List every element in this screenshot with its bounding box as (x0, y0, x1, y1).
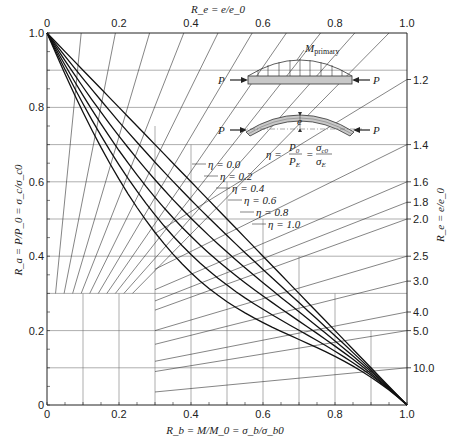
svg-text:0: 0 (38, 399, 44, 411)
svg-text:PE: PE (288, 155, 301, 169)
svg-text:P0: P0 (288, 141, 300, 155)
grid (47, 70, 407, 405)
svg-text:0.6: 0.6 (29, 176, 44, 188)
right-axis-title: R_e = e/e_0 (434, 188, 446, 243)
p-label-left: P (217, 74, 225, 86)
svg-text:2.5: 2.5 (413, 250, 428, 262)
p-label-right: P (372, 74, 380, 86)
top-axis-title: R_e = e/e_0 (190, 3, 245, 15)
svg-text:1.6: 1.6 (413, 176, 428, 188)
e-label: e (297, 115, 302, 127)
svg-text:0.8: 0.8 (327, 408, 342, 420)
svg-text:σE: σE (316, 155, 326, 169)
svg-text:η =: η = (266, 148, 282, 160)
svg-text:0.4: 0.4 (183, 408, 198, 420)
svg-text:0.6: 0.6 (255, 408, 270, 420)
beam-diagram: P P Mprimary (217, 42, 380, 86)
x-axis-title: R_b = M/M_0 = σ_b/σ_b0 (165, 424, 284, 436)
interaction-chart: 1.21.41.61.82.02.53.04.05.010.000.20.40.… (0, 0, 453, 444)
svg-text:1.8: 1.8 (413, 196, 428, 208)
svg-text:η = 0.6: η = 0.6 (244, 194, 277, 206)
svg-text:0.2: 0.2 (29, 325, 44, 337)
svg-text:1.2: 1.2 (413, 74, 428, 86)
eccentricity-lines (56, 33, 407, 392)
svg-text:0.6: 0.6 (255, 17, 270, 29)
svg-text:σc0: σc0 (316, 141, 329, 155)
svg-text:0.4: 0.4 (183, 17, 198, 29)
svg-text:1.0: 1.0 (399, 408, 414, 420)
svg-text:0.2: 0.2 (111, 408, 126, 420)
p-label-left-2: P (217, 124, 225, 136)
svg-text:2.0: 2.0 (413, 213, 428, 225)
y-axis-title: R_a = P/P_0 = σ_c/σ_c0 (12, 164, 24, 277)
svg-text:η = 0.8: η = 0.8 (256, 206, 289, 218)
svg-text:3.0: 3.0 (413, 275, 428, 287)
svg-text:η = 0.4: η = 0.4 (232, 182, 265, 194)
svg-text:1.0: 1.0 (399, 17, 414, 29)
svg-text:η = 1.0: η = 1.0 (268, 218, 301, 230)
svg-text:1.4: 1.4 (413, 139, 428, 151)
svg-text:4.0: 4.0 (413, 306, 428, 318)
svg-text:0.2: 0.2 (111, 17, 126, 29)
deflected-beam-diagram: e P P (217, 112, 380, 136)
svg-text:10.0: 10.0 (413, 362, 434, 374)
svg-text:0.4: 0.4 (29, 250, 44, 262)
svg-text:0: 0 (44, 408, 50, 420)
svg-text:0: 0 (44, 17, 50, 29)
svg-text:η = 0.0: η = 0.0 (208, 158, 241, 170)
p-label-right-2: P (372, 124, 380, 136)
svg-text:=: = (306, 148, 313, 160)
svg-text:0.8: 0.8 (29, 101, 44, 113)
m-primary-label: Mprimary (304, 42, 340, 56)
svg-text:η = 0.2: η = 0.2 (220, 170, 253, 182)
svg-text:0.8: 0.8 (327, 17, 342, 29)
svg-text:5.0: 5.0 (413, 325, 428, 337)
svg-text:1.0: 1.0 (29, 27, 44, 39)
